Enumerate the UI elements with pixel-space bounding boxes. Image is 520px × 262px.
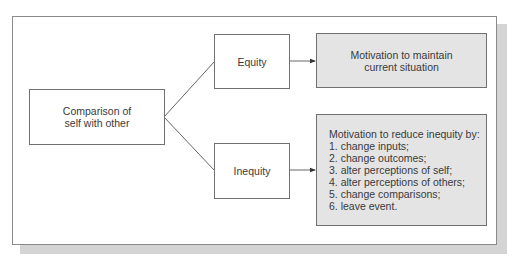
equity-label: Equity	[237, 56, 266, 68]
strategy-item: 1. change inputs;	[329, 140, 480, 152]
connector-to-equity	[164, 62, 214, 117]
inequity-outcome-heading: Motivation to reduce inequity by:	[329, 128, 480, 140]
connector-to-inequity	[164, 117, 214, 170]
strategy-item: 3. alter perceptions of self;	[329, 164, 480, 176]
inequity-node: Inequity	[214, 143, 290, 199]
equity-outcome-node: Motivation to maintain current situation	[316, 33, 487, 88]
equity-outcome-line1: Motivation to maintain	[350, 49, 452, 61]
comparison-node: Comparison of self with other	[29, 89, 165, 145]
equity-outcome-line2: current situation	[350, 61, 452, 73]
strategy-item: 6. leave event.	[329, 200, 480, 212]
inequity-label: Inequity	[234, 165, 271, 177]
inequity-strategy-list: 1. change inputs; 2. change outcomes; 3.…	[329, 140, 480, 212]
inequity-outcome-node: Motivation to reduce inequity by: 1. cha…	[316, 114, 487, 226]
equity-node: Equity	[214, 34, 290, 89]
strategy-item: 5. change comparisons;	[329, 188, 480, 200]
strategy-item: 4. alter perceptions of others;	[329, 176, 480, 188]
strategy-item: 2. change outcomes;	[329, 152, 480, 164]
comparison-label-line2: self with other	[63, 117, 131, 129]
comparison-label-line1: Comparison of	[63, 105, 131, 117]
